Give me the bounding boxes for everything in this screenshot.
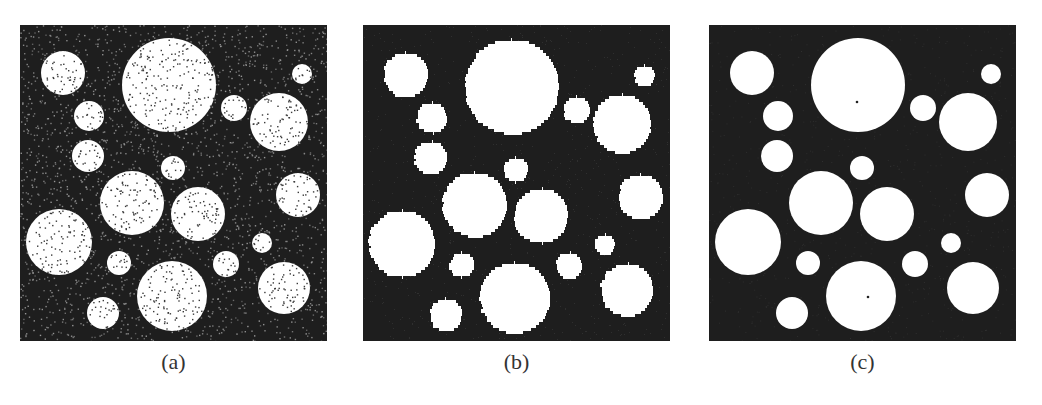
- caption-b: (b): [363, 349, 670, 375]
- panel-canvas: [20, 25, 327, 341]
- circle-blob: [593, 93, 651, 154]
- center-dot: [856, 101, 859, 104]
- circle-blob: [276, 173, 320, 217]
- circle-blob: [789, 171, 853, 235]
- circle-blob: [730, 51, 774, 95]
- circle-blob: [258, 262, 310, 314]
- circle-blob: [939, 93, 997, 151]
- caption-c: (c): [709, 349, 1016, 375]
- circle-blob: [965, 173, 1009, 217]
- center-dot: [867, 296, 870, 299]
- circle-blob: [87, 297, 119, 329]
- circle-blob: [811, 38, 905, 132]
- circle-blob: [292, 64, 312, 84]
- circle-blob: [41, 51, 85, 95]
- circle-blob: [776, 297, 808, 329]
- circle-blob: [761, 140, 793, 172]
- circle-blob: [796, 251, 820, 275]
- circle-blob: [100, 171, 164, 235]
- circle-blob: [715, 209, 781, 275]
- circle-blob: [74, 101, 104, 131]
- circle-blob: [763, 101, 793, 131]
- circle-blob: [137, 261, 207, 331]
- circle-blob: [826, 261, 896, 331]
- panel-c-segmentation: [709, 25, 1016, 341]
- circle-blob: [213, 251, 239, 277]
- caption-a: (a): [20, 349, 327, 375]
- panel-canvas: [709, 25, 1016, 341]
- panel-a-noisy-image: [20, 25, 327, 341]
- panel-b-segmentation: [363, 25, 670, 341]
- circle-blob: [161, 156, 185, 180]
- circle-blob: [634, 64, 655, 86]
- circle-blob: [122, 38, 216, 132]
- circle-blob: [595, 233, 615, 255]
- panel-canvas: [363, 25, 670, 341]
- circle-blob: [902, 251, 928, 277]
- circle-blob: [171, 187, 225, 241]
- circle-blob: [72, 140, 104, 172]
- circle-blob: [252, 233, 272, 253]
- circle-blob: [850, 156, 874, 180]
- circle-blob: [947, 262, 999, 314]
- circle-blob: [860, 187, 914, 241]
- circle-blob: [981, 64, 1001, 84]
- circle-blob: [910, 95, 936, 121]
- circle-blob: [941, 233, 961, 253]
- circle-blob: [107, 251, 131, 275]
